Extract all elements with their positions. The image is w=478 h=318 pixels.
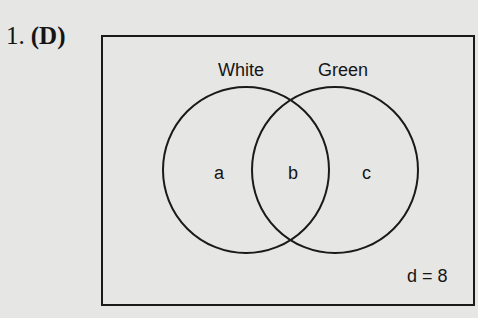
outside-region-label: d = 8 xyxy=(407,266,448,286)
white-set-label: White xyxy=(218,60,264,80)
green-set-circle xyxy=(252,87,418,253)
region-a-label: a xyxy=(214,163,224,183)
region-c-label: c xyxy=(362,163,371,183)
region-b-label: b xyxy=(288,163,298,183)
green-set-label: Green xyxy=(318,60,368,80)
white-set-circle xyxy=(163,87,329,253)
